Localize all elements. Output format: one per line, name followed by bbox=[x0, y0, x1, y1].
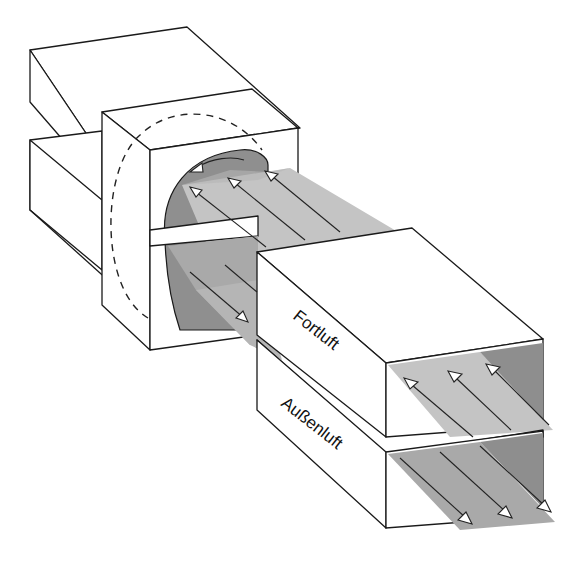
heat-recovery-wheel-diagram: Fortluft Außenluft bbox=[0, 0, 579, 562]
